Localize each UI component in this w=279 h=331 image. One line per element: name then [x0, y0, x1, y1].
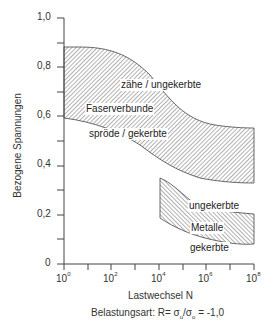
- xtick-label: 106: [198, 271, 212, 284]
- ytick-label: 0,2: [37, 208, 51, 219]
- xtick-label: 100: [56, 271, 70, 284]
- ytick-label: 0,8: [37, 60, 51, 71]
- x-axis-title: Lastwechsel N: [128, 290, 193, 301]
- label-faserverbunde: Faserverbunde: [85, 103, 154, 115]
- label-zaehe-ungekerbte: zähe / ungekerbte: [120, 79, 202, 91]
- label-sproede-gekerbte: spröde / gekerbte: [88, 128, 168, 140]
- xtick-label: 108: [246, 271, 260, 284]
- ytick-label: 0,6: [37, 109, 51, 120]
- x-ticks: [64, 264, 254, 270]
- ytick-label: 0: [45, 257, 51, 268]
- ytick-label: 0,4: [37, 158, 51, 169]
- xtick-label: 102: [103, 271, 117, 284]
- y-axis-title: Bezogene Spannungen: [12, 91, 23, 201]
- xtick-label: 104: [151, 271, 165, 284]
- faserverbunde-band: [64, 47, 254, 183]
- ytick-label: 1,0: [37, 11, 51, 22]
- y-ticks: [57, 18, 64, 264]
- label-gekerbte: gekerbte: [189, 242, 230, 254]
- label-metalle: Metalle: [190, 222, 224, 234]
- label-ungekerbte: ungekerbte: [188, 200, 240, 212]
- load-ratio-caption: Belastungsart: R= σu/σo = -1,0: [91, 307, 224, 320]
